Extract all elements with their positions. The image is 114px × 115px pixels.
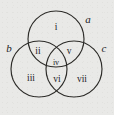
region-label-ii: ii [35,47,40,57]
region-label-iii: iii [27,74,35,84]
region-label-vii: vii [77,75,87,85]
region-label-v: v [67,47,72,57]
set-label-b: b [6,43,12,54]
set-label-a: a [85,14,91,25]
region-label-vi: vi [53,75,60,85]
set-label-c: c [102,43,107,54]
circle-c [46,41,102,97]
region-label-i: i [55,23,58,33]
region-label-iv: iv [53,59,59,67]
venn-diagram-figure: a b c i ii v iv iii vi vii [0,0,114,115]
